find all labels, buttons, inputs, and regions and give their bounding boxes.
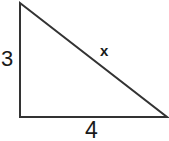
triangle-outline bbox=[20, 3, 167, 117]
vertical-leg-label: 3 bbox=[1, 48, 13, 70]
horizontal-leg-label: 4 bbox=[85, 119, 98, 141]
right-triangle-figure: 3 x 4 bbox=[0, 0, 169, 141]
hypotenuse-label: x bbox=[100, 43, 108, 58]
